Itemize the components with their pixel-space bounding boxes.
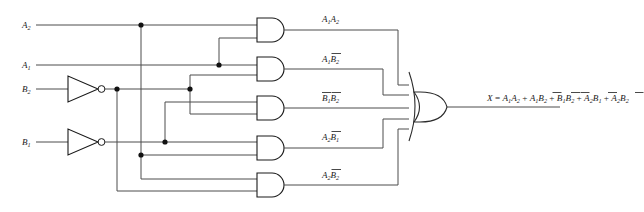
- wire-b2bar-to-and2: [190, 75, 257, 89]
- and-gate-1[interactable]: [257, 18, 306, 42]
- and-gate-5[interactable]: [257, 173, 306, 197]
- inverter-b2[interactable]: [68, 76, 105, 102]
- svg-text:B1: B1: [22, 137, 31, 148]
- wire-and2-to-or: [306, 69, 409, 95]
- svg-text:B1B2: B1B2: [322, 93, 339, 104]
- svg-text:X = A1A2 + A1B2 + B1B2 + A2B1: X = A1A2 + A1B2 + B1B2 + A2B1 + A2B2: [486, 93, 629, 104]
- and-gate-3[interactable]: [257, 96, 306, 120]
- product-label-4: A2B1: [321, 132, 341, 144]
- input-label-b1: B1: [22, 137, 31, 148]
- junction-dot-b2bar-trunk: [114, 86, 119, 91]
- junction-dot-b2bar-fan: [187, 86, 192, 91]
- svg-text:A2: A2: [21, 20, 31, 31]
- input-label-a2: A2: [21, 20, 31, 31]
- or-gate-output[interactable]: [409, 72, 560, 141]
- svg-text:A1B2: A1B2: [321, 54, 339, 65]
- junction-dot-a2-to-and4: [138, 152, 143, 157]
- input-label-a1: A1: [21, 60, 31, 71]
- svg-text:B2: B2: [22, 84, 31, 95]
- logic-circuit-diagram: A2 A1 B2 B1: [0, 0, 644, 212]
- and-gate-2[interactable]: [257, 57, 306, 81]
- junction-dot-a1-fanout: [216, 62, 221, 67]
- junction-dot-b1bar-fan: [162, 139, 167, 144]
- inverter-b1[interactable]: [68, 129, 105, 155]
- product-label-2: A1B2: [321, 54, 341, 66]
- svg-text:A1A2: A1A2: [321, 14, 339, 25]
- product-label-1: A1A2: [321, 14, 339, 25]
- product-label-5: A2B2: [321, 170, 341, 182]
- wire-b2bar-trunk-down: [117, 89, 257, 191]
- wire-b1bar-to-and3: [165, 102, 257, 142]
- svg-text:A1: A1: [21, 60, 31, 71]
- input-label-b2: B2: [22, 84, 31, 95]
- product-label-3: B1B2: [322, 93, 341, 105]
- junction-dot-a2-fanout: [138, 22, 143, 27]
- wire-a1-to-and1: [219, 38, 257, 65]
- svg-text:A2B1: A2B1: [321, 132, 339, 143]
- and-gate-4[interactable]: [257, 136, 306, 160]
- output-equation: X = A1A2 + A1B2 + B1B2 + A2B1 + A2B2: [486, 93, 644, 105]
- svg-text:A2B2: A2B2: [321, 170, 339, 181]
